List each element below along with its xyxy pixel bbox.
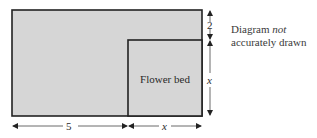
dimension-label-x-horizontal: x [160, 120, 169, 132]
dimension-label-2: 2 [205, 19, 215, 31]
flower-bed-label: Flower bed [128, 73, 202, 85]
accuracy-note: Diagram not accurately drawn [231, 23, 306, 48]
note-prefix: Diagram [231, 23, 272, 35]
dimension-label-x-vertical: x [205, 74, 214, 86]
note-suffix: accurately drawn [231, 36, 306, 48]
diagram-canvas [0, 0, 317, 138]
note-emphasis: not [272, 23, 286, 35]
dimension-label-5: 5 [64, 120, 74, 132]
